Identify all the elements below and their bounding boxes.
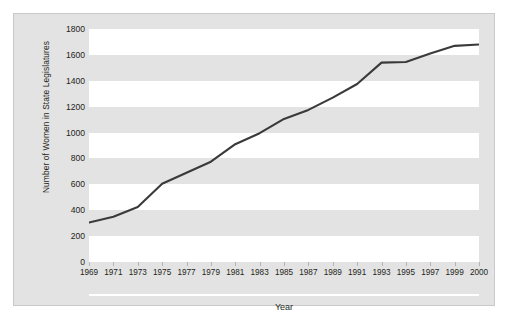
- x-axis-tick-mark: [187, 262, 188, 266]
- x-axis-tick-mark: [138, 262, 139, 266]
- x-axis-tick-mark: [162, 262, 163, 266]
- x-axis-tick-mark: [113, 262, 114, 266]
- x-axis-tick-label: 1983: [251, 268, 269, 277]
- x-axis-tick-label: 1985: [275, 268, 293, 277]
- chart-figure: Number of Women in State Legislatures 02…: [13, 13, 495, 306]
- x-axis-tick-mark: [260, 262, 261, 266]
- x-axis-tick-label: 1973: [129, 268, 147, 277]
- x-axis-tick-label: 1971: [104, 268, 122, 277]
- plot-area: 0200400600800100012001400160018001969197…: [89, 29, 479, 262]
- x-axis-tick-mark: [235, 262, 236, 266]
- x-axis-tick-mark: [479, 262, 480, 266]
- x-axis-tick-label: 1995: [397, 268, 415, 277]
- x-axis-tick-label: 1999: [446, 268, 464, 277]
- y-axis-tick-label: 1800: [66, 24, 85, 34]
- x-axis-tick-label: 1997: [421, 268, 439, 277]
- x-axis-tick-mark: [308, 262, 309, 266]
- data-line: [89, 45, 479, 223]
- y-axis-tick-label: 1400: [66, 76, 85, 86]
- x-axis-tick-mark: [333, 262, 334, 266]
- x-axis-tick-label: 1981: [226, 268, 244, 277]
- y-axis-title: Number of Women in State Legislatures: [41, 27, 51, 207]
- x-axis-tick-mark: [357, 262, 358, 266]
- x-axis-title: Year: [89, 302, 479, 312]
- y-axis-tick-label: 1600: [66, 50, 85, 60]
- x-axis-tick-label: 1969: [80, 268, 98, 277]
- x-axis-tick-label: 1993: [372, 268, 390, 277]
- x-axis-tick-label: 2000: [470, 268, 488, 277]
- x-axis-tick-mark: [382, 262, 383, 266]
- x-axis-tick-label: 1987: [299, 268, 317, 277]
- y-axis-tick-label: 200: [71, 231, 85, 241]
- x-axis-tick-mark: [284, 262, 285, 266]
- y-axis-tick-label: 600: [71, 179, 85, 189]
- x-axis-tick-mark: [455, 262, 456, 266]
- x-axis-tick-label: 1991: [348, 268, 366, 277]
- x-axis-tick-label: 1975: [153, 268, 171, 277]
- x-axis-tick-mark: [406, 262, 407, 266]
- y-axis-tick-label: 400: [71, 205, 85, 215]
- y-axis-tick-label: 0: [80, 257, 85, 267]
- y-axis-tick-label: 800: [71, 153, 85, 163]
- line-series: [89, 29, 479, 262]
- x-axis-tick-mark: [211, 262, 212, 266]
- y-axis-tick-label: 1000: [66, 128, 85, 138]
- x-axis-tick-mark: [89, 262, 90, 266]
- y-axis-tick-label: 1200: [66, 102, 85, 112]
- x-axis-rule: [89, 294, 479, 296]
- x-axis-tick-label: 1977: [177, 268, 195, 277]
- x-axis-tick-mark: [430, 262, 431, 266]
- x-axis-tick-label: 1989: [324, 268, 342, 277]
- x-axis-tick-label: 1979: [202, 268, 220, 277]
